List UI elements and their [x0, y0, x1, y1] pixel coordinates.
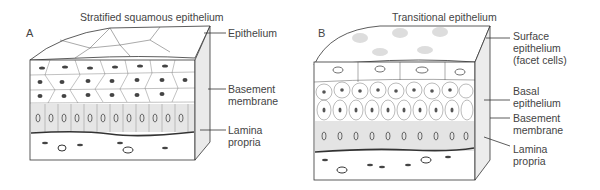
panel-b: Transitional epithelium B Surface epithe…: [300, 0, 600, 190]
panel-a-letter: A: [26, 27, 33, 39]
label-lamina-propria: Lamina propria: [513, 143, 547, 167]
panel-b-letter: B: [318, 27, 325, 39]
panel-a: Stratified squamous epithelium A Epithel…: [0, 0, 300, 190]
label-basement-membrane: Basement membrane: [228, 83, 278, 107]
label-basal-epithelium: Basal epithelium: [513, 85, 561, 109]
label-surface-epithelium: Surface epithelium (facet cells): [513, 30, 567, 66]
label-epithelium: Epithelium: [228, 27, 277, 39]
label-lamina-propria: Lamina propria: [228, 124, 262, 148]
panel-b-title: Transitional epithelium: [392, 11, 497, 23]
panel-a-title: Stratified squamous epithelium: [80, 11, 224, 23]
label-basement-membrane: Basement membrane: [513, 112, 563, 136]
